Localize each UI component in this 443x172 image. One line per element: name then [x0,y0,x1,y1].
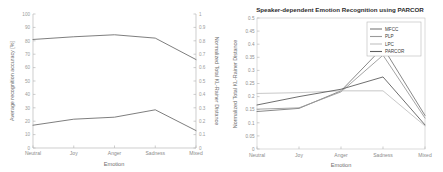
left-x-tick-label: Sadness [146,150,166,156]
right-y-tick-label: 0.35 [246,55,255,60]
left-y2-tick-label: 0.6 [199,65,206,70]
left-y2-tick-label: 0.8 [199,39,206,44]
left-y2-axis-title: Normalized Total KL-Rainer Distance [214,37,220,125]
left-y-tick-label: 70 [25,52,31,57]
left-y-tick-label: 80 [25,39,31,44]
right-x-tick-label: Mixed [418,152,432,158]
left-x-axis-ticks: NeutralJoyAngerSadnessMixed [25,146,203,157]
right-chart-legend[interactable]: MFCCPLPLPCPARCOR [367,22,421,56]
right-chart-panel: Speaker-dependent Emotion Recognition us… [222,0,443,172]
left-series-group [33,35,196,131]
legend-label-parcor[interactable]: PARCOR [385,49,405,54]
figure-root: 0102030405060708090100 00.10.20.30.40.50… [0,0,443,172]
left-chart-svg: 0102030405060708090100 00.10.20.30.40.50… [0,0,222,172]
right-y-tick-label: 0.5 [248,16,255,21]
left-x-tick-label: Neutral [25,150,41,156]
right-x-tick-label: Anger [334,152,348,158]
right-y-axis-title: Normalized Total KL-Rainer Distance [232,40,238,128]
left-x-axis-title: Emotion [104,161,125,167]
left-y2-tick-label: 0.9 [199,25,206,30]
right-x-axis-ticks: NeutralJoyAngerSadnessMixed [249,147,432,159]
left-y2-tick-label: 1 [199,12,202,17]
right-y-tick-label: 0 [252,147,255,152]
right-series-line [257,77,425,125]
left-x-tick-label: Mixed [189,150,203,156]
left-x-tick-label: Joy [70,150,78,156]
right-chart-svg: Speaker-dependent Emotion Recognition us… [222,0,443,172]
right-y-tick-label: 0.3 [248,68,255,73]
left-y-tick-label: 10 [25,132,31,137]
right-y-tick-label: 0.1 [248,121,255,126]
left-y-tick-label: 20 [25,119,31,124]
left-y-tick-label: 60 [25,65,31,70]
right-y-tick-label: 0.25 [246,81,255,86]
right-y-tick-label: 0.4 [248,42,255,47]
left-y2-tick-label: 0.5 [199,79,206,84]
left-y-tick-label: 30 [25,106,31,111]
left-y2-tick-label: 0.4 [199,92,206,97]
right-y-tick-label: 0.15 [246,107,255,112]
left-y-tick-label: 50 [25,79,31,84]
legend-label-mfcc[interactable]: MFCC [385,27,399,32]
left-y-tick-label: 90 [25,25,31,30]
right-x-axis-title: Emotion [331,162,352,168]
right-chart-title: Speaker-dependent Emotion Recognition us… [256,6,424,13]
right-series-group [257,47,425,126]
left-y2-tick-label: 0.3 [199,106,206,111]
left-y-tick-label: 100 [22,12,30,17]
right-y-tick-label: 0.05 [246,134,255,139]
left-y-tick-label: 40 [25,92,31,97]
right-y-axis-ticks: 00.050.10.150.20.250.30.350.40.450.5 [246,16,260,152]
left-x-tick-label: Anger [108,150,122,156]
right-x-tick-label: Sadness [373,152,393,158]
left-series-line [33,35,196,60]
left-y-axis-ticks: 0102030405060708090100 [22,12,35,151]
legend-label-lpc[interactable]: LPC [385,42,395,47]
right-y-tick-label: 0.2 [248,94,255,99]
left-chart-panel: 0102030405060708090100 00.10.20.30.40.50… [0,0,222,172]
left-series-line [33,110,196,131]
left-y-axis-title: Average recognition accuracy [%] [9,40,15,121]
right-y-tick-label: 0.45 [246,29,255,34]
left-y2-tick-label: 0.2 [199,119,206,124]
left-y2-tick-label: 0.1 [199,132,206,137]
legend-label-plp[interactable]: PLP [385,34,394,39]
right-series-line [257,55,425,118]
left-y2-tick-label: 0.7 [199,52,206,57]
right-x-tick-label: Joy [295,152,303,158]
right-x-tick-label: Neutral [249,152,265,158]
